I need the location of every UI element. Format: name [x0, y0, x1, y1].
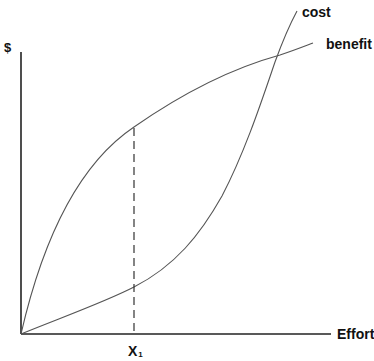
x1-marker-letter: X — [128, 343, 137, 359]
x-axis-label: Effort — [337, 327, 374, 341]
x1-marker-subscript: 1 — [138, 350, 142, 359]
benefit-curve — [21, 43, 313, 334]
cost-label: cost — [302, 5, 331, 19]
benefit-label: benefit — [326, 37, 372, 51]
x1-marker-label: X1 — [128, 344, 143, 359]
y-axis-label: $ — [4, 41, 11, 54]
cost-benefit-diagram — [0, 0, 374, 361]
cost-curve — [21, 11, 297, 334]
